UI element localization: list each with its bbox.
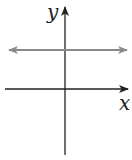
x-axis-label: x — [119, 91, 130, 115]
y-axis-label: y — [46, 0, 59, 24]
coordinate-plane-diagram: y x — [0, 0, 132, 160]
